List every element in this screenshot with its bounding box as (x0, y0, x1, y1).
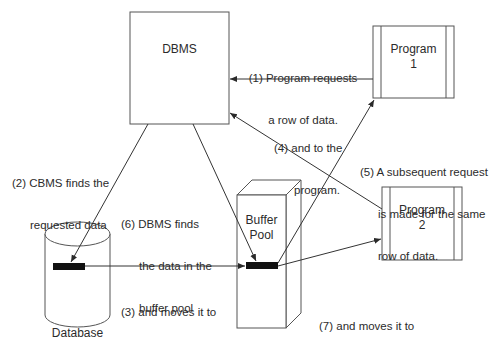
program1-label-line2: 1 (381, 57, 446, 72)
database-label-text: Database (52, 326, 103, 340)
step6-line1: (6) DBMS finds (121, 217, 212, 231)
step6-line3: buffer pool (121, 301, 212, 315)
step4-line1: (4) and to the (274, 141, 342, 155)
step2-line1: (2) CBMS finds the (12, 176, 109, 190)
buffer-pool-label: Buffer Pool (237, 213, 286, 243)
step5-line2: is made for the same (360, 207, 488, 221)
step6-label: (6) DBMS finds the data in the buffer po… (121, 189, 212, 329)
step5-label: (5) A subsequent request is made for the… (360, 137, 488, 277)
dbms-label-text: DBMS (162, 42, 197, 56)
buffer-pool-label-line2: Pool (237, 228, 286, 243)
step6-line2: the data in the (121, 259, 212, 273)
step5-line3: row of data. (360, 249, 488, 263)
database-data-block (53, 263, 85, 270)
program1-label: Program 1 (381, 42, 446, 72)
dbms-label: DBMS (130, 42, 229, 57)
dbms-box (130, 12, 229, 124)
step4-label: (4) and to the program. (274, 113, 342, 211)
step4-line2: program. (274, 183, 342, 197)
program1-label-line1: Program (381, 42, 446, 57)
buffer-data-block (246, 262, 278, 269)
step7-line1: (7) and moves it to (319, 319, 439, 333)
step1-line1: (1) Program requests (243, 71, 363, 85)
step5-line1: (5) A subsequent request (360, 165, 488, 179)
step7-label: (7) and moves it to the program without … (319, 291, 439, 345)
buffer-pool-label-line1: Buffer (237, 213, 286, 228)
step2-line2: requested data (12, 218, 109, 232)
database-label: Database (40, 326, 115, 341)
step2-label: (2) CBMS finds the requested data (12, 148, 109, 246)
